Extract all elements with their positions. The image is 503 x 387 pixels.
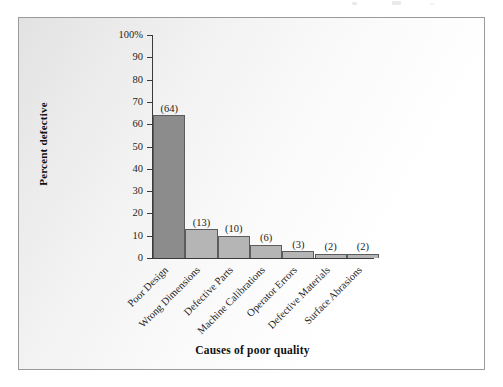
y-axis-tick-label: 80	[97, 74, 143, 85]
bar-value-label: (2)	[325, 242, 337, 253]
scan-smudge	[430, 3, 434, 5]
bar: (6)	[250, 245, 282, 258]
bar: (3)	[282, 251, 314, 258]
x-axis-category-labels: Poor DesignWrong DimensionsDefective Par…	[19, 261, 485, 356]
bar-value-label: (64)	[160, 104, 178, 115]
bar-value-label: (2)	[357, 242, 369, 253]
y-axis-tick-label: 90	[97, 52, 143, 63]
bar: (2)	[347, 254, 379, 258]
bar-value-label: (10)	[225, 224, 243, 235]
x-axis-line	[152, 258, 374, 259]
bar: (64)	[153, 115, 185, 258]
scan-artifacts	[0, 0, 503, 14]
y-axis-tick-label: 70	[97, 97, 143, 108]
bar-series: (64)(13)(10)(6)(3)(2)(2)	[153, 35, 383, 258]
chart-figure-frame: Percent defective 0102030405060708090100…	[18, 17, 485, 370]
scan-smudge	[392, 1, 401, 5]
y-axis-tick-label: 100%	[97, 30, 143, 41]
bar-value-label: (13)	[193, 218, 211, 229]
y-axis-title: Percent defective	[37, 84, 49, 204]
y-axis-tick-label: 30	[97, 186, 143, 197]
pareto-chart-plot-area: Percent defective 0102030405060708090100…	[19, 18, 485, 370]
bar-value-label: (3)	[292, 240, 304, 251]
y-axis-tick-label: 50	[97, 141, 143, 152]
y-axis-tick-label: 40	[97, 164, 143, 175]
bar: (2)	[315, 254, 347, 258]
y-axis-tick-label: 10	[97, 230, 143, 241]
x-axis-category-label: Surface Abrasions	[303, 265, 365, 327]
y-axis-tick-label: 20	[97, 208, 143, 219]
scan-smudge	[352, 2, 357, 5]
bar: (10)	[218, 236, 250, 258]
bar: (13)	[185, 229, 217, 258]
x-axis-title: Causes of poor quality	[19, 344, 485, 356]
y-axis-tick-label: 60	[97, 119, 143, 130]
bar-value-label: (6)	[260, 233, 272, 244]
